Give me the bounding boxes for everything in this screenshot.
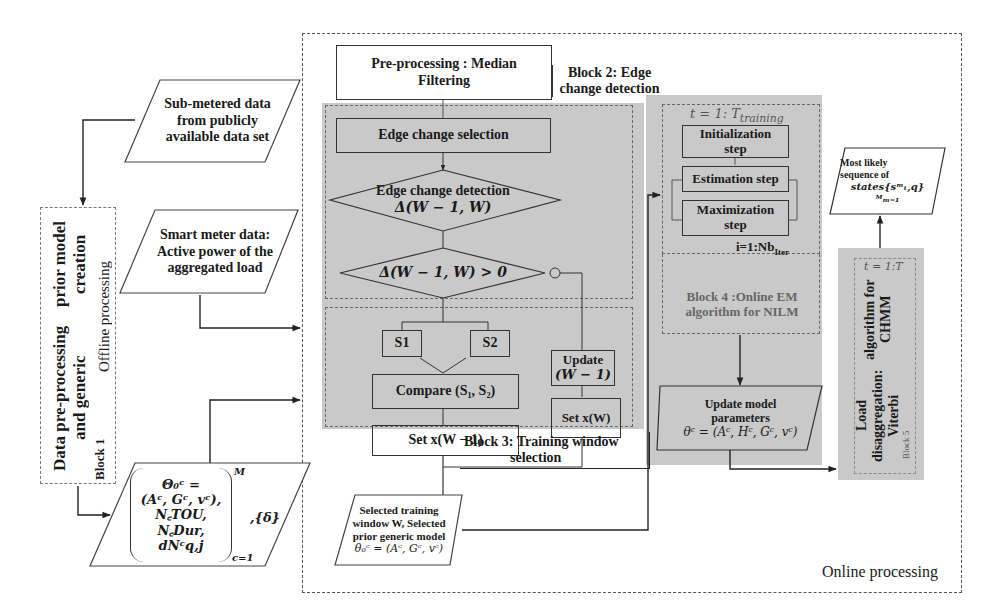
- edge-change-selection: Edge change selection: [336, 118, 551, 153]
- prior-model-superscript: M: [234, 466, 245, 477]
- sub-metered-data-input: Sub-metered data from publicly available…: [150, 85, 285, 157]
- s1-box: S1: [382, 330, 422, 357]
- edge-condition-diamond: Δ(W − 1, W) > 0: [370, 264, 516, 280]
- preprocessing-median-filtering: Pre-processing : Median Filtering: [336, 45, 552, 100]
- update-w-minus-1-box: Update (W − 1): [551, 350, 615, 386]
- prior-model-parameters: Θ₀ᶜ = (Aᶜ, Gᶜ, vᶜ), N꜀TOU, N꜀Dur, dNᶜq,j: [130, 468, 232, 562]
- block3-title: Block 3: Training window selection: [460, 432, 650, 469]
- block4-loop-label: t = 1: Ttraining: [690, 106, 784, 125]
- prior-model-subscript: c=1: [232, 552, 253, 563]
- smart-meter-data-input: Smart meter data: Active power of the ag…: [140, 215, 290, 289]
- most-likely-sequence-output: Most likely sequence of states{sᵐₜ,q}ᴹₘ₌…: [840, 152, 935, 210]
- block4-title-frame: [662, 254, 820, 334]
- selected-training-window-output: Selected training window W, Selected pri…: [340, 496, 458, 564]
- estimation-step: Estimation step: [682, 166, 789, 192]
- block2-title: Block 2: Edge change detection: [552, 65, 664, 97]
- block1-title: Data pre-processing and generic prior mo…: [48, 212, 92, 480]
- offline-processing-label: Offline processing: [96, 212, 112, 372]
- online-processing-label: Online processing: [822, 563, 938, 581]
- update-model-parameters: Update model parameters θᶜ = (Aᶜ, Hᶜ, Gᶜ…: [668, 390, 813, 446]
- compare-box: Compare (S₁, S₂): [372, 374, 519, 409]
- block1-label: Block 1: [92, 380, 108, 480]
- initialization-step: Initialization step: [682, 125, 789, 158]
- block5-title: Load disaggregation: Viterbi algorithm f…: [858, 278, 898, 470]
- s2-box: S2: [470, 330, 510, 357]
- block5-label: Block 5: [900, 420, 912, 470]
- block5-loop-label: t = 1:T: [864, 260, 903, 273]
- maximization-step: Maximization step: [682, 200, 789, 236]
- edge-change-detection-diamond: Edge change detection Δ(W − 1, W): [360, 183, 526, 215]
- prior-model-delta: ,{δ}: [250, 510, 280, 525]
